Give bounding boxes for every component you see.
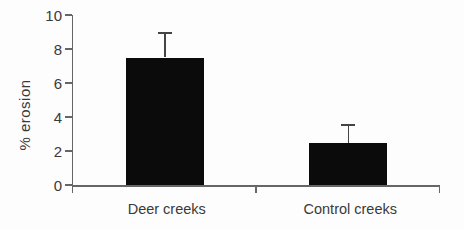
x-category-label: Control creeks (290, 202, 410, 217)
bar-deer-creeks (126, 58, 204, 186)
y-tick-label: 6 (10, 76, 62, 91)
y-tick-label: 4 (10, 110, 62, 125)
y-tick-label: 10 (10, 8, 62, 23)
y-tick-mark (65, 184, 72, 186)
y-axis-line (72, 15, 74, 191)
y-tick-mark (65, 48, 72, 50)
y-tick-mark (65, 150, 72, 152)
x-tick-mark (72, 187, 74, 193)
y-tick-label: 8 (10, 42, 62, 57)
plot-area: 0246810Deer creeksControl creeks (0, 0, 464, 229)
y-tick-label: 0 (10, 178, 62, 193)
y-tick-label: 2 (10, 144, 62, 159)
bar-control-creeks (309, 143, 387, 186)
error-bar-line (348, 126, 350, 143)
y-tick-mark (65, 14, 72, 16)
x-category-label: Deer creeks (107, 202, 227, 217)
error-bar-line (164, 34, 166, 58)
y-tick-mark (65, 116, 72, 118)
x-tick-mark (439, 187, 441, 193)
error-bar-cap (158, 32, 172, 34)
erosion-bar-chart: % erosion 0246810Deer creeksControl cree… (0, 0, 464, 229)
x-tick-mark (255, 187, 257, 193)
error-bar-cap (341, 124, 355, 126)
y-tick-mark (65, 82, 72, 84)
